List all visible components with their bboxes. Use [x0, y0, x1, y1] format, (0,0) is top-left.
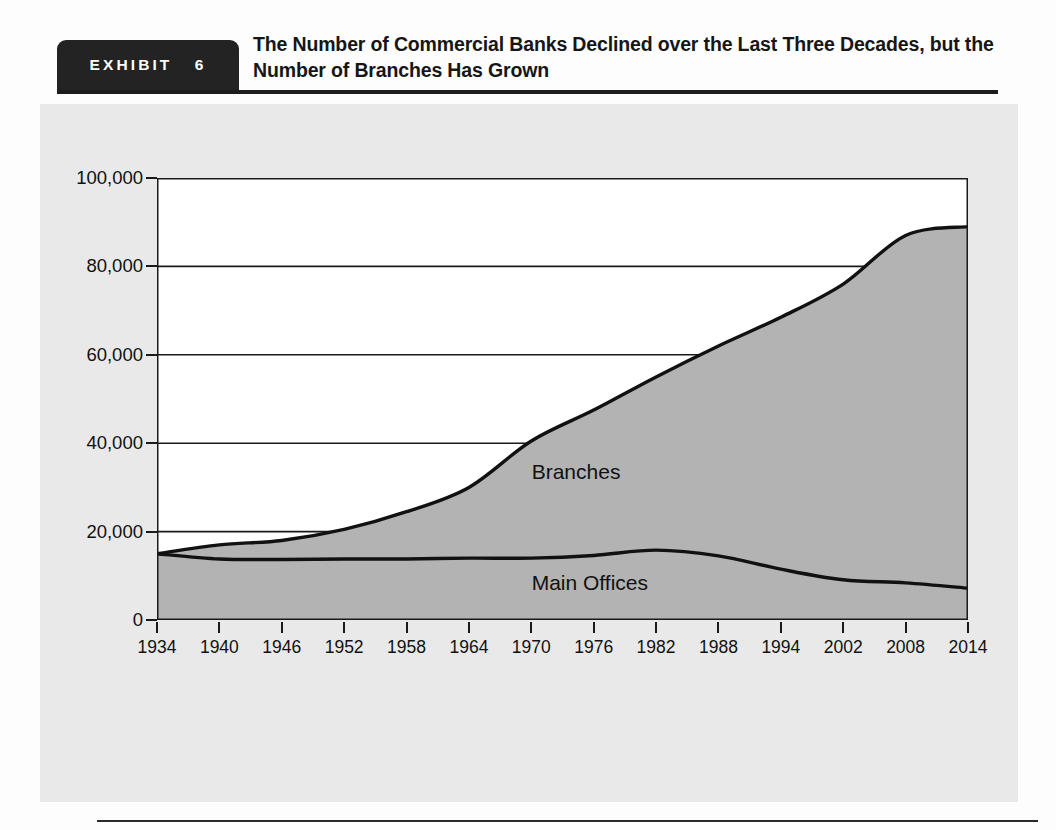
x-tick-label: 1976 — [559, 637, 629, 658]
x-tick-label: 2014 — [933, 637, 1003, 658]
x-tick-mark — [218, 622, 220, 633]
x-tick-mark — [593, 622, 595, 633]
x-tick-mark — [842, 622, 844, 633]
x-tick-label: 1958 — [372, 637, 442, 658]
x-tick-label: 1988 — [683, 637, 753, 658]
x-tick-mark — [967, 622, 969, 633]
source-divider — [97, 820, 1038, 822]
x-tick-label: 1964 — [434, 637, 504, 658]
x-tick-mark — [281, 622, 283, 633]
x-tick-mark — [156, 622, 158, 633]
exhibit-badge-label: EXHIBIT 6 — [90, 56, 207, 74]
x-tick-mark — [530, 622, 532, 633]
y-tick-mark — [146, 442, 157, 444]
x-tick-mark — [717, 622, 719, 633]
exhibit-header: EXHIBIT 6 The Number of Commercial Banks… — [0, 0, 1056, 104]
x-tick-label: 1994 — [746, 637, 816, 658]
y-tick-label: 60,000 — [43, 344, 143, 366]
x-tick-mark — [655, 622, 657, 633]
y-tick-label: 0 — [43, 609, 143, 631]
x-tick-label: 2002 — [808, 637, 878, 658]
area-chart: 020,00040,00060,00080,000100,000 1934194… — [40, 104, 1018, 684]
x-tick-label: 1940 — [184, 637, 254, 658]
y-tick-mark — [146, 177, 157, 179]
y-tick-mark — [146, 619, 157, 621]
series-label-branches: Branches — [532, 460, 621, 484]
exhibit-page: EXHIBIT 6 The Number of Commercial Banks… — [0, 0, 1056, 830]
x-tick-label: 1934 — [122, 637, 192, 658]
x-tick-label: 2008 — [871, 637, 941, 658]
y-tick-mark — [146, 531, 157, 533]
y-tick-mark — [146, 265, 157, 267]
series-label-main-offices: Main Offices — [532, 571, 648, 595]
x-tick-mark — [905, 622, 907, 633]
x-tick-label: 1982 — [621, 637, 691, 658]
y-tick-label: 80,000 — [43, 255, 143, 277]
x-tick-label: 1946 — [247, 637, 317, 658]
exhibit-badge: EXHIBIT 6 — [57, 40, 239, 90]
y-tick-mark — [146, 354, 157, 356]
exhibit-title: The Number of Commercial Banks Declined … — [253, 32, 998, 83]
x-tick-mark — [468, 622, 470, 633]
plot-area — [157, 178, 968, 620]
y-tick-label: 40,000 — [43, 432, 143, 454]
chart-panel: 020,00040,00060,00080,000100,000 1934194… — [40, 104, 1018, 802]
plot-svg — [157, 178, 968, 620]
x-tick-mark — [780, 622, 782, 633]
header-divider — [57, 90, 998, 94]
x-tick-label: 1952 — [309, 637, 379, 658]
x-tick-label: 1970 — [496, 637, 566, 658]
y-tick-label: 20,000 — [43, 521, 143, 543]
x-tick-mark — [343, 622, 345, 633]
y-tick-label: 100,000 — [43, 167, 143, 189]
x-tick-mark — [406, 622, 408, 633]
